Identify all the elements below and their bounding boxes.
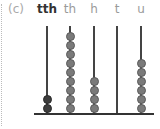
column-label-h: h: [82, 2, 106, 16]
bead: [90, 95, 99, 104]
bead: [43, 95, 52, 104]
question-label: (c): [8, 2, 24, 16]
bead: [66, 50, 75, 59]
bead: [137, 86, 146, 95]
bead: [137, 104, 146, 113]
bead: [66, 41, 75, 50]
column-label-th: th: [58, 2, 82, 16]
bead: [43, 104, 52, 113]
bead: [90, 104, 99, 113]
dotted-margin: [1, 4, 3, 126]
bead: [90, 86, 99, 95]
rod-t: [116, 26, 118, 114]
bead: [66, 95, 75, 104]
bead: [137, 59, 146, 68]
bead: [137, 95, 146, 104]
bead: [66, 32, 75, 41]
abacus-base: [34, 113, 154, 115]
column-label-tth: tth: [35, 2, 59, 16]
bead: [66, 77, 75, 86]
bead: [66, 68, 75, 77]
bead: [137, 68, 146, 77]
bead: [66, 86, 75, 95]
bead: [66, 59, 75, 68]
bead: [137, 77, 146, 86]
column-label-t: t: [105, 2, 129, 16]
bead: [66, 104, 75, 113]
column-label-u: u: [129, 2, 153, 16]
bead: [90, 77, 99, 86]
